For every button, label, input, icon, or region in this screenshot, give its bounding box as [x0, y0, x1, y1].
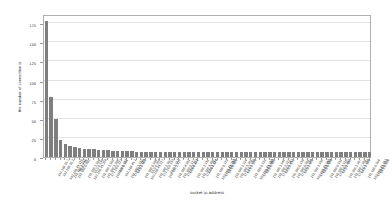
bar — [116, 151, 119, 157]
bar — [292, 152, 295, 157]
x-tick-mark — [207, 158, 208, 160]
x-tick-mark — [93, 158, 94, 160]
x-tick-mark — [107, 158, 108, 160]
x-tick-mark — [364, 158, 365, 160]
x-tick-mark — [331, 158, 332, 160]
bar — [349, 152, 352, 157]
bar — [278, 152, 281, 157]
bar — [335, 152, 338, 157]
bar — [68, 146, 71, 157]
x-tick-mark — [183, 158, 184, 160]
bar — [159, 152, 162, 157]
bar — [344, 152, 347, 157]
x-tick-mark — [350, 158, 351, 160]
x-tick-label: 10.0.0.208 — [379, 159, 390, 174]
x-tick-mark — [45, 158, 46, 160]
bar — [211, 152, 214, 157]
bar — [59, 140, 62, 157]
y-axis-ticks: 0255075100125150175 — [0, 15, 43, 158]
x-tick-mark — [140, 158, 141, 160]
bar — [368, 152, 371, 157]
bar — [164, 152, 167, 157]
x-tick-mark — [155, 158, 156, 160]
x-tick-mark — [297, 158, 298, 160]
x-tick-mark — [354, 158, 355, 160]
bar — [87, 149, 90, 157]
bar — [287, 152, 290, 157]
x-tick-mark — [274, 158, 275, 160]
bar — [144, 152, 147, 157]
x-tick-mark — [74, 158, 75, 160]
bar — [178, 152, 181, 157]
x-tick-mark — [264, 158, 265, 160]
x-tick-mark — [178, 158, 179, 160]
x-tick-mark — [145, 158, 146, 160]
bar — [235, 152, 238, 157]
x-tick-mark — [83, 158, 84, 160]
bar-series — [44, 16, 370, 157]
bar — [297, 152, 300, 157]
x-tick-mark — [316, 158, 317, 160]
bar — [49, 97, 52, 157]
x-tick-mark — [359, 158, 360, 160]
bar — [282, 152, 285, 157]
x-tick-mark — [340, 158, 341, 160]
x-tick-mark — [236, 158, 237, 160]
bar — [106, 150, 109, 157]
x-tick-mark — [188, 158, 189, 160]
x-tick-mark — [117, 158, 118, 160]
bar — [149, 152, 152, 157]
x-tick-mark — [50, 158, 51, 160]
x-tick-mark — [345, 158, 346, 160]
x-axis-ticks: 192.168.20.7192.168.20.1192.168.43.11019… — [43, 159, 371, 189]
x-tick-mark — [126, 158, 127, 160]
bar — [301, 152, 304, 157]
bar-chart-figure: the number of connection is 025507510012… — [0, 0, 392, 202]
bar — [102, 150, 105, 157]
bar — [83, 149, 86, 157]
x-tick-mark — [335, 158, 336, 160]
x-tick-mark — [88, 158, 89, 160]
bar — [325, 152, 328, 157]
x-tick-mark — [131, 158, 132, 160]
bar — [206, 152, 209, 157]
bar — [140, 152, 143, 157]
bar — [111, 151, 114, 157]
plot-area — [43, 15, 371, 158]
bar — [187, 152, 190, 157]
bar — [216, 152, 219, 157]
x-tick-mark — [98, 158, 99, 160]
bar — [64, 144, 67, 157]
x-tick-mark — [150, 158, 151, 160]
x-tick-mark — [212, 158, 213, 160]
x-tick-mark — [197, 158, 198, 160]
bar — [320, 152, 323, 157]
x-tick-mark — [326, 158, 327, 160]
x-tick-mark — [136, 158, 137, 160]
x-tick-mark — [288, 158, 289, 160]
x-tick-mark — [231, 158, 232, 160]
x-tick-mark — [102, 158, 103, 160]
bar — [92, 149, 95, 157]
x-tick-mark — [321, 158, 322, 160]
bar — [125, 151, 128, 157]
x-tick-mark — [245, 158, 246, 160]
bar — [97, 150, 100, 157]
x-tick-mark — [293, 158, 294, 160]
x-tick-mark — [302, 158, 303, 160]
x-tick-mark — [112, 158, 113, 160]
bar — [225, 152, 228, 157]
bar — [168, 152, 171, 157]
x-axis-label: socket ip address — [43, 190, 371, 195]
x-tick-mark — [193, 158, 194, 160]
bar — [192, 152, 195, 157]
bar — [135, 152, 138, 157]
bar — [263, 152, 266, 157]
bar — [73, 147, 76, 157]
x-tick-mark — [312, 158, 313, 160]
x-tick-mark — [79, 158, 80, 160]
bar — [45, 21, 48, 157]
x-tick-mark — [202, 158, 203, 160]
x-tick-mark — [60, 158, 61, 160]
bar — [54, 119, 57, 157]
